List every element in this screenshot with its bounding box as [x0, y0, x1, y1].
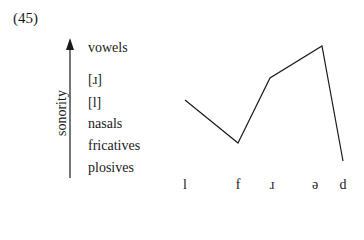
scale-label-r: [ɹ] [88, 72, 102, 88]
segment-label: f [236, 177, 241, 193]
scale-label-plosives: plosives [88, 160, 134, 176]
segment-label: ɹ [270, 177, 275, 193]
scale-label-vowels: vowels [88, 40, 128, 56]
arrowhead-icon [66, 38, 74, 50]
sonority-profile-line [185, 46, 343, 161]
axis-title-sonority: sonority [54, 92, 70, 136]
scale-label-nasals: nasals [88, 116, 122, 132]
scale-label-l: [l] [88, 95, 101, 111]
segment-label: d [340, 177, 347, 193]
scale-label-fricatives: fricatives [88, 138, 140, 154]
segment-label: l [183, 177, 187, 193]
segment-label: ə [312, 177, 318, 193]
